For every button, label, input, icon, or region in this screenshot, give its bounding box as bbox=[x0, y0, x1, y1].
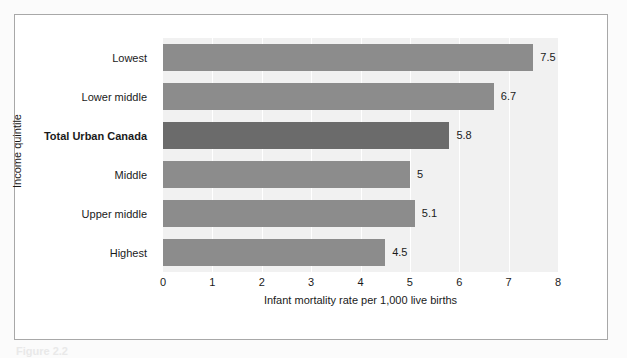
category-axis-labels: LowestLower middleTotal Urban CanadaMidd… bbox=[0, 38, 155, 272]
x-tick-label: 5 bbox=[407, 276, 413, 288]
bar-row: 4.5 bbox=[163, 233, 558, 272]
x-tick-label: 6 bbox=[456, 276, 462, 288]
category-label: Lower middle bbox=[82, 91, 155, 103]
category-label: Lowest bbox=[112, 52, 155, 64]
bar-value-label: 5 bbox=[417, 169, 423, 180]
bar-value-label: 5.8 bbox=[456, 130, 471, 141]
bar[interactable] bbox=[163, 122, 449, 149]
x-tick-label: 8 bbox=[555, 276, 561, 288]
category-label: Highest bbox=[110, 247, 155, 259]
x-tick-label: 1 bbox=[209, 276, 215, 288]
category-label-slot: Middle bbox=[0, 155, 155, 194]
category-label: Total Urban Canada bbox=[44, 130, 155, 142]
bar-value-label: 7.5 bbox=[540, 52, 555, 63]
bar[interactable] bbox=[163, 200, 415, 227]
bar[interactable] bbox=[163, 239, 385, 266]
bar[interactable] bbox=[163, 44, 533, 71]
category-label-slot: Lower middle bbox=[0, 77, 155, 116]
gridline bbox=[558, 38, 559, 272]
bar-row: 6.7 bbox=[163, 77, 558, 116]
bar-series: 7.56.75.855.14.5 bbox=[163, 38, 558, 272]
bar[interactable] bbox=[163, 161, 410, 188]
bar-value-label: 4.5 bbox=[392, 247, 407, 258]
category-label: Upper middle bbox=[82, 208, 155, 220]
category-label-slot: Highest bbox=[0, 233, 155, 272]
x-tick-label: 7 bbox=[506, 276, 512, 288]
bar-value-label: 6.7 bbox=[501, 91, 516, 102]
x-axis-title: Infant mortality rate per 1,000 live bir… bbox=[163, 294, 558, 306]
bar[interactable] bbox=[163, 83, 494, 110]
bar-row: 5.8 bbox=[163, 116, 558, 155]
x-tick-label: 0 bbox=[160, 276, 166, 288]
x-tick-label: 3 bbox=[308, 276, 314, 288]
category-label: Middle bbox=[115, 169, 155, 181]
category-label-slot: Lowest bbox=[0, 38, 155, 77]
x-tick-label: 2 bbox=[259, 276, 265, 288]
category-label-slot: Upper middle bbox=[0, 194, 155, 233]
bar-row: 5.1 bbox=[163, 194, 558, 233]
figure-container: LowestLower middleTotal Urban CanadaMidd… bbox=[0, 0, 627, 358]
bar-value-label: 5.1 bbox=[422, 208, 437, 219]
bar-row: 5 bbox=[163, 155, 558, 194]
figure-caption: Figure 2.2 bbox=[16, 345, 68, 357]
x-tick-label: 4 bbox=[357, 276, 363, 288]
bar-row: 7.5 bbox=[163, 38, 558, 77]
y-axis-title: Income quintile bbox=[11, 96, 23, 206]
x-axis-tick-labels: 012345678 bbox=[163, 276, 558, 292]
category-label-slot: Total Urban Canada bbox=[0, 116, 155, 155]
